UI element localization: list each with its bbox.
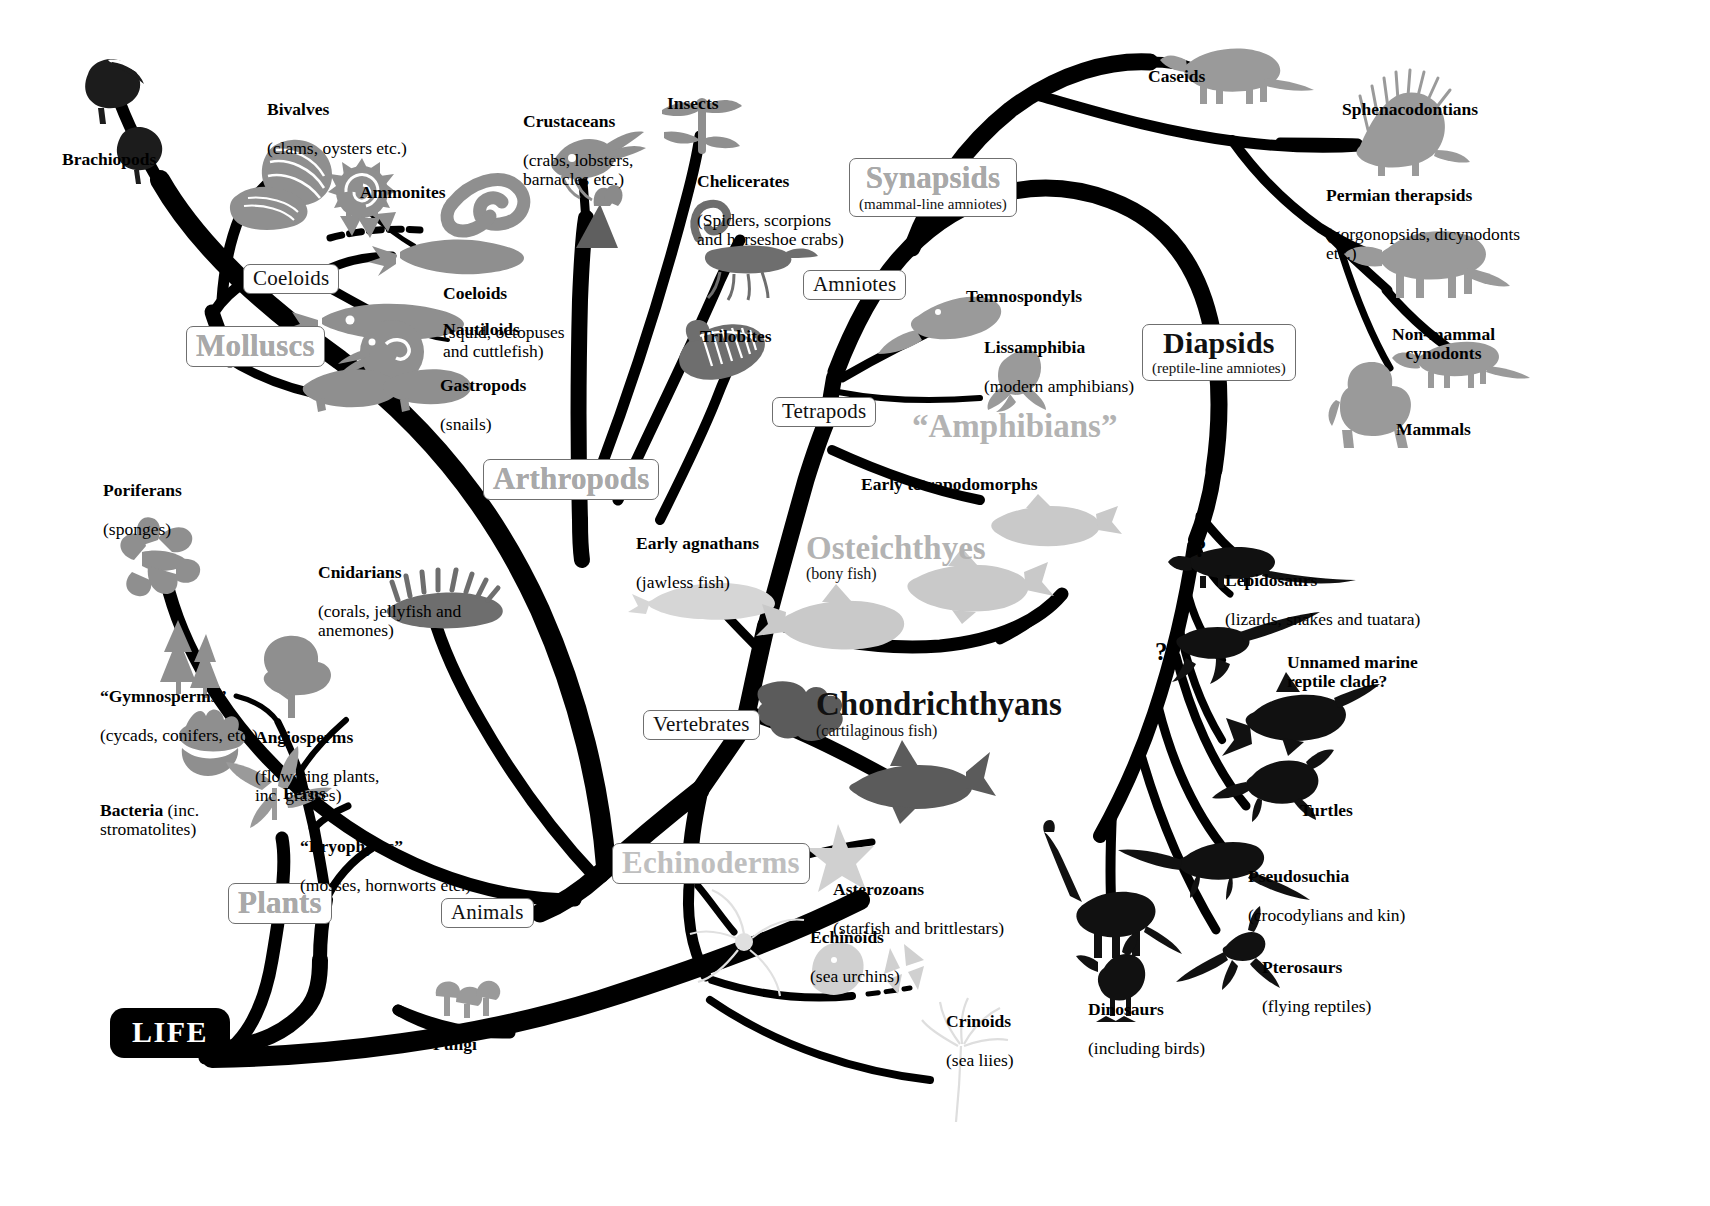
root-node-life[interactable]: LIFE [110, 1008, 230, 1058]
taxon-label-echinoids: Echinoids (sea urchins) [810, 908, 900, 986]
clade-sub-synapsids: (mammal-line amniotes) [859, 196, 1007, 213]
taxon-label-gymnosperms: “Gymnosperms” (cycads, conifers, etc.) [100, 667, 258, 745]
clade-label-chondrichthyans: Chondrichthyans (cartilaginous fish) [816, 686, 1062, 740]
taxon-label-bivalves: Bivalves (clams, oysters etc.) [267, 80, 407, 158]
taxon-label-ammonites: Ammonites [360, 163, 446, 202]
taxon-label-lepidosaurs: Lepidosaurs (lizards, snakes and tuatara… [1225, 551, 1420, 629]
taxon-label-sphenacodontians: Sphenacodontians [1342, 80, 1478, 119]
clade-label-amphibians: “Amphibians” [912, 408, 1117, 445]
taxon-label-chelicerates: Chelicerates (Spiders, scorpions and hor… [697, 152, 844, 250]
taxon-label-early-agnathans: Early agnathans (jawless fish) [636, 514, 759, 592]
clade-label-amniotes: Amniotes [813, 272, 896, 297]
taxon-label-pseudosuchia: Pseudosuchia (crocodylians and kin) [1248, 847, 1405, 925]
taxon-label-mammals: Mammals [1396, 400, 1471, 439]
clade-label-tetrapods: Tetrapods [782, 399, 866, 424]
clade-sub-diapsids: (reptile-line amniotes) [1152, 360, 1286, 377]
clade-label-molluscs: Molluscs [196, 328, 315, 364]
taxon-label-permian-therapsids: Permian therapsids (gorgonopsids, dicyno… [1326, 166, 1520, 264]
clade-box-tetrapods[interactable]: Tetrapods [772, 397, 876, 427]
clade-label-animals: Animals [451, 900, 524, 925]
taxon-label-brachiopods: Brachiopods [62, 130, 156, 169]
taxon-label-temnospondyls: Temnospondyls [966, 267, 1082, 306]
silhouette-angiosperm-tree [264, 636, 331, 718]
taxon-label-cnidarians: Cnidarians (corals, jellyfish and anemon… [318, 543, 461, 641]
taxon-label-bacteria: Bacteria (inc. stromatolites) [100, 781, 199, 840]
taxon-label-non-mammal-cynodonts: Non-mammal cynodonts [1392, 305, 1495, 364]
clade-label-synapsids: Synapsids [859, 160, 1007, 196]
taxon-label-insects: Insects [667, 74, 719, 113]
clade-label-arthropods: Arthropods [493, 461, 649, 497]
clade-box-echinoderms[interactable]: Echinoderms [612, 843, 810, 884]
tree-of-life-diagram: Molluscs Coeloids Arthropods Synapsids (… [0, 0, 1710, 1206]
silhouette-squid-upper [447, 180, 524, 232]
osteichthyes-name: Osteichthyes [806, 530, 986, 566]
taxon-label-fungi: Fungi [433, 1015, 477, 1054]
clade-label-coeloids: Coeloids [253, 266, 329, 291]
taxon-label-bryophytes: “Bryophytes” (mosses, hornworts etc.) [300, 817, 471, 895]
uncertainty-mark-lepidosaurs: ? [1194, 535, 1207, 563]
silhouette-bony-fish-1 [991, 494, 1122, 546]
clade-box-synapsids[interactable]: Synapsids (mammal-line amniotes) [849, 158, 1017, 217]
taxon-label-dinosaurs: Dinosaurs (including birds) [1088, 980, 1205, 1058]
clade-box-diapsids[interactable]: Diapsids (reptile-line amniotes) [1142, 324, 1296, 381]
uncertainty-mark-marine-reptiles: ? [1155, 638, 1168, 666]
taxon-label-gastropods: Gastropods (snails) [440, 356, 526, 434]
clade-box-amniotes[interactable]: Amniotes [803, 270, 906, 300]
taxon-label-lissamphibia: Lissamphibia (modern amphibians) [984, 318, 1134, 396]
taxon-label-turtles: Turtles [1300, 781, 1353, 820]
clade-box-vertebrates[interactable]: Vertebrates [643, 710, 760, 740]
taxon-label-ferns: Ferns [283, 764, 326, 803]
silhouette-fungi [436, 981, 501, 1018]
clade-box-coeloids[interactable]: Coeloids [243, 264, 339, 294]
taxon-label-crinoids: Crinoids (sea liies) [946, 992, 1014, 1070]
silhouette-shark [849, 740, 996, 824]
chondrichthyans-sub: (cartilaginous fish) [816, 722, 1062, 740]
clade-label-vertebrates: Vertebrates [653, 712, 750, 737]
taxon-label-poriferans: Poriferans (sponges) [103, 461, 182, 539]
clade-label-diapsids: Diapsids [1152, 326, 1286, 360]
taxon-label-caseids: Caseids [1148, 47, 1205, 86]
taxon-label-unnamed-marine-reptile-clade: Unnamed marine reptile clade? [1287, 633, 1418, 692]
silhouette-brachiopod [85, 59, 144, 124]
taxon-label-crustaceans: Crustaceans (crabs, lobsters, barnacles … [523, 92, 633, 190]
taxon-label-nautiloids: Nautiloids [443, 300, 520, 339]
chondrichthyans-name: Chondrichthyans [816, 686, 1062, 722]
taxon-label-pterosaurs: Pterosaurs (flying reptiles) [1262, 938, 1371, 1016]
clade-label-echinoderms: Echinoderms [622, 845, 800, 881]
osteichthyes-sub: (bony fish) [806, 565, 986, 583]
amphibians-name: “Amphibians” [912, 408, 1117, 444]
clade-box-arthropods[interactable]: Arthropods [483, 459, 659, 500]
clade-label-osteichthyes: Osteichthyes (bony fish) [806, 530, 986, 583]
clade-box-molluscs[interactable]: Molluscs [186, 326, 325, 367]
taxon-label-early-tetrapodomorphs: Early tetrapodomorphs [861, 455, 1037, 494]
taxon-label-trilobites: Trilobites [700, 307, 772, 346]
clade-box-animals[interactable]: Animals [441, 898, 534, 928]
